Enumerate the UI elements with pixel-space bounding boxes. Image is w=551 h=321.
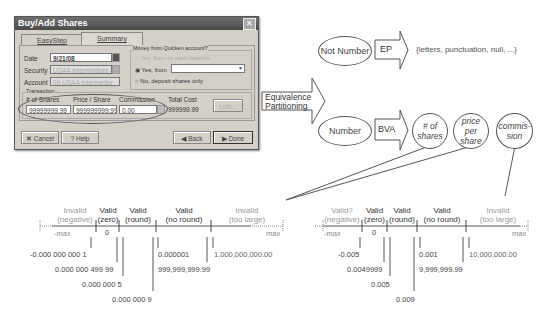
seg-l2: (zero): [96, 215, 120, 224]
seg-label: Valid(zero): [96, 206, 120, 224]
boundary-value: 1,000,000,000.00: [214, 250, 272, 259]
seg-l1: Valid: [96, 206, 120, 215]
seg-l2: (no round): [158, 215, 210, 224]
seg-label: Invalid(too large): [470, 206, 526, 224]
seg-l1: Valid: [158, 206, 210, 215]
seg-l1: Valid: [121, 206, 155, 215]
seg-label: Invalid(too large): [215, 206, 279, 224]
seg-l1: Valid: [387, 206, 417, 215]
min-label: -max: [54, 229, 71, 238]
boundary-value: 10,000,000.00: [469, 250, 517, 259]
boundary-value: 0.000 000 5: [82, 280, 122, 289]
boundary-value: 0.005: [371, 280, 390, 289]
boundary-value: 9,999,999.99: [419, 265, 463, 274]
max-label: max: [266, 229, 280, 238]
price-oval: price per share: [453, 113, 489, 149]
boundary-value: 0.000 000 9: [112, 295, 152, 304]
seg-l1: Valid: [362, 206, 387, 215]
boundary-value: 0.000001: [158, 250, 189, 259]
seg-label: Valid(round): [387, 206, 417, 224]
boundary-value: -0.005: [338, 250, 359, 259]
seg-l1: Invalid: [470, 206, 526, 215]
seg-label: Valid(no round): [158, 206, 210, 224]
boundary-value: 0.000 000 499 99: [55, 265, 113, 274]
shares-oval: # of shares: [412, 113, 448, 149]
min-label: -max: [324, 229, 341, 238]
bva-label: BVA: [378, 124, 395, 134]
seg-l2: (round): [387, 215, 417, 224]
boundary-value: 999,999,999.99: [158, 265, 210, 274]
seg-l2: (negative): [53, 215, 97, 224]
seg-l2: (no round): [418, 215, 466, 224]
zero-label: 0: [105, 228, 109, 237]
seg-label: Valid(zero): [362, 206, 387, 224]
seg-l2: (too large): [215, 215, 279, 224]
seg-label: Valid(no round): [418, 206, 466, 224]
boundary-value: 0.0049999: [347, 265, 382, 274]
seg-label: Valid?(negative): [322, 206, 362, 224]
seg-l1: Invalid: [215, 206, 279, 215]
commission-oval: commis- sion: [496, 113, 533, 149]
ep-set-text: {letters, punctuation, null, ...}: [416, 45, 517, 54]
seg-l2: (round): [121, 215, 155, 224]
number-oval: Number: [318, 116, 372, 146]
ep-label: EP: [380, 44, 392, 54]
not-number-oval: Not Number: [318, 36, 372, 66]
seg-l2: (too large): [470, 215, 526, 224]
ep-arrow-label: Equivalence Partitioning: [265, 93, 313, 111]
seg-label: Invalid(negative): [53, 206, 97, 224]
seg-l1: Valid?: [322, 206, 362, 215]
seg-l2: (zero): [362, 215, 387, 224]
max-label: max: [512, 229, 526, 238]
seg-label: Valid(round): [121, 206, 155, 224]
seg-l1: Valid: [418, 206, 466, 215]
seg-l1: Invalid: [53, 206, 97, 215]
boundary-value: 0.001: [419, 250, 438, 259]
seg-l2: (negative): [322, 215, 362, 224]
boundary-value: -0.000 000 000 1: [30, 250, 87, 259]
boundary-value: 0.009: [396, 295, 415, 304]
zero-label: 0: [372, 228, 376, 237]
